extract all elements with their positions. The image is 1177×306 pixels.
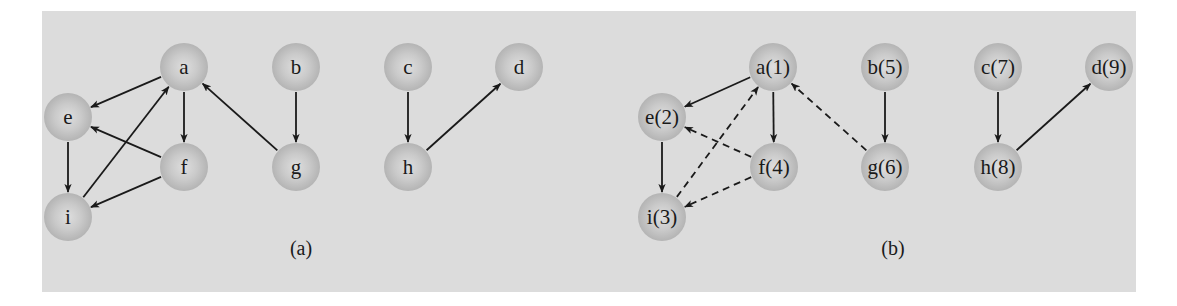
node-label: g(6): [868, 155, 903, 179]
node-b-e: e(2): [638, 93, 686, 141]
node-b-d: d(9): [1085, 43, 1133, 91]
node-label: c(7): [981, 55, 1015, 79]
node-label: e: [63, 105, 72, 129]
caption-b: (b): [881, 237, 904, 260]
node-label: b(5): [868, 55, 903, 79]
edge-a-f-to-i: [91, 177, 161, 207]
node-label: h(8): [981, 155, 1016, 179]
node-b-c: c(7): [974, 43, 1022, 91]
nodes-layer: abcdefghia(1)b(5)c(7)d(9)e(2)f(4)g(6)h(8…: [44, 43, 1133, 241]
node-label: a: [179, 55, 189, 79]
node-label: i(3): [647, 205, 677, 229]
node-a-c: c: [384, 43, 432, 91]
node-b-h: h(8): [974, 143, 1022, 191]
edge-a-h-to-d: [427, 84, 501, 151]
node-label: g: [291, 155, 302, 179]
node-label: f(4): [758, 155, 789, 179]
node-a-e: e: [44, 93, 92, 141]
edge-a-a-to-e: [91, 77, 161, 107]
node-label: c: [403, 55, 412, 79]
graph-diagram: abcdefghia(1)b(5)c(7)d(9)e(2)f(4)g(6)h(8…: [0, 0, 1177, 306]
node-label: f: [181, 155, 188, 179]
node-label: d(9): [1092, 55, 1127, 79]
captions-layer: (a)(b): [290, 237, 905, 260]
node-label: a(1): [756, 55, 790, 79]
node-label: h: [403, 155, 414, 179]
node-b-a: a(1): [749, 43, 797, 91]
node-a-d: d: [495, 43, 543, 91]
node-b-f: f(4): [750, 143, 798, 191]
node-b-g: g(6): [861, 143, 909, 191]
edge-a-f-to-e: [91, 127, 161, 157]
node-label: i: [65, 205, 71, 229]
node-a-f: f: [160, 143, 208, 191]
edges-layer: [68, 77, 1090, 207]
node-label: b: [291, 55, 302, 79]
node-b-i: i(3): [638, 193, 686, 241]
edge-b-f-to-i: [685, 177, 751, 207]
node-b-b: b(5): [861, 43, 909, 91]
edge-b-a-to-f: [773, 92, 774, 142]
edge-b-g-to-a: [792, 84, 867, 151]
caption-a: (a): [290, 237, 312, 260]
node-a-g: g: [272, 143, 320, 191]
edge-b-a-to-e: [685, 77, 750, 106]
node-a-b: b: [272, 43, 320, 91]
node-label: e(2): [645, 105, 679, 129]
node-a-h: h: [384, 143, 432, 191]
node-label: d: [514, 55, 525, 79]
node-a-a: a: [160, 43, 208, 91]
edge-b-h-to-d: [1017, 84, 1091, 151]
node-a-i: i: [44, 193, 92, 241]
edge-a-g-to-a: [203, 84, 278, 151]
edge-b-f-to-e: [685, 127, 751, 157]
